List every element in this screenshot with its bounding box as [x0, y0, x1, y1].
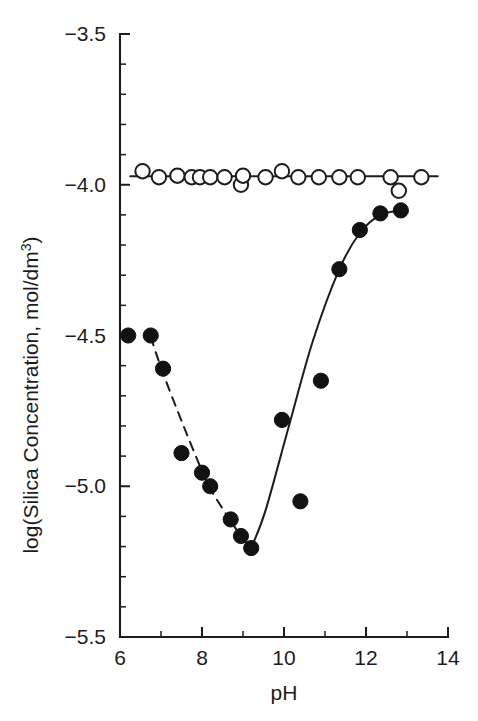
open-circle-point: [236, 169, 250, 183]
filled-circle-point: [332, 262, 347, 277]
filled-circle-point: [274, 412, 289, 427]
open-circle-point: [203, 170, 217, 184]
x-axis-tick-labels: 68101214: [114, 646, 460, 669]
open-circle-point: [351, 170, 365, 184]
y-axis-tick-labels: −3.5−4.0−4.5−5.0−5.5: [65, 22, 106, 648]
y-tick-label: −4.5: [65, 324, 106, 347]
fit-curves-layer: [151, 210, 401, 548]
y-tick-label: −5.5: [65, 625, 106, 648]
open-circle-point: [217, 170, 231, 184]
filled-circle-data-points: [121, 203, 409, 556]
filled-circle-point: [174, 445, 189, 460]
filled-circle-point: [194, 465, 209, 480]
x-tick-label: 10: [272, 646, 295, 669]
y-tick-label: −4.0: [65, 173, 106, 196]
open-circle-point: [392, 184, 406, 198]
open-circle-point: [383, 170, 397, 184]
filled-circle-point: [233, 528, 248, 543]
x-axis-title: pH: [271, 681, 298, 704]
filled-circle-point: [393, 203, 408, 218]
open-circle-data-points: [135, 164, 428, 198]
x-tick-label: 6: [114, 646, 126, 669]
open-circle-point: [332, 170, 346, 184]
filled-circle-point: [293, 494, 308, 509]
open-circle-point: [258, 170, 272, 184]
y-axis-title: log(Silica Concentration, mol/dm3): [18, 236, 42, 553]
open-circle-point: [291, 170, 305, 184]
filled-circle-point: [155, 361, 170, 376]
open-circle-point: [312, 170, 326, 184]
open-circle-point: [414, 170, 428, 184]
x-tick-label: 14: [436, 646, 460, 669]
x-axis-major-ticks: [120, 627, 448, 637]
filled-circle-point: [121, 328, 136, 343]
x-tick-label: 12: [354, 646, 377, 669]
filled-circle-point: [223, 512, 238, 527]
y-tick-label: −3.5: [65, 22, 106, 45]
silica-solubility-figure: −3.5−4.0−4.5−5.0−5.5 68101214 log(Silica…: [0, 0, 478, 721]
open-circle-point: [275, 164, 289, 178]
filled-circle-point: [143, 328, 158, 343]
filled-circle-point: [244, 540, 259, 555]
filled-circle-point: [313, 373, 328, 388]
filled-circle-point: [352, 222, 367, 237]
chart-canvas: −3.5−4.0−4.5−5.0−5.5 68101214 log(Silica…: [0, 0, 478, 721]
open-circle-point: [135, 164, 149, 178]
open-circle-point: [170, 169, 184, 183]
open-circle-point: [152, 170, 166, 184]
y-tick-label: −5.0: [65, 474, 106, 497]
x-tick-label: 8: [196, 646, 208, 669]
filled-circle-point: [203, 479, 218, 494]
filled-circle-point: [373, 206, 388, 221]
